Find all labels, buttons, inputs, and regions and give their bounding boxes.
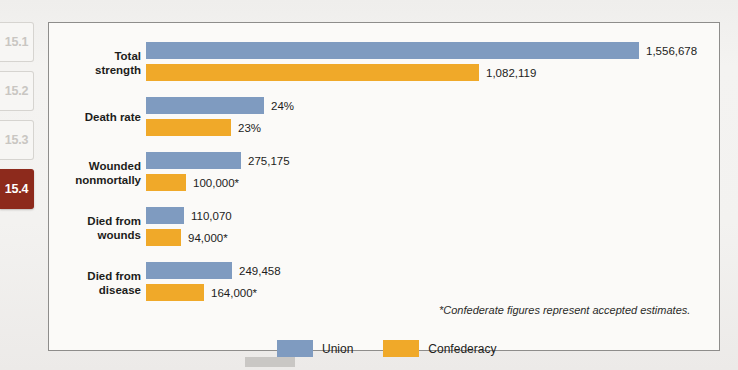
bar-value-union: 110,070 <box>191 210 232 222</box>
bar-value-confederacy: 94,000* <box>188 232 228 244</box>
bar-value-union: 1,556,678 <box>646 45 697 57</box>
bar-confederacy[interactable] <box>146 174 186 191</box>
bar-group-bars: 110,070 94,000* <box>146 206 719 250</box>
legend-item-confederacy[interactable]: Confederacy <box>383 340 496 357</box>
bar-group-death-rate: Death rate 24% 23% <box>49 96 719 140</box>
bar-value-union: 275,175 <box>248 155 290 167</box>
legend-item-union[interactable]: Union <box>277 340 353 357</box>
bar-row-confederacy: 164,000* <box>146 284 257 301</box>
bar-row-union: 249,458 <box>146 262 281 279</box>
legend-swatch-union <box>277 340 313 357</box>
bar-row-union: 110,070 <box>146 207 232 224</box>
bar-confederacy[interactable] <box>146 119 231 136</box>
bar-row-confederacy: 1,082,119 <box>146 64 536 81</box>
bar-value-confederacy: 1,082,119 <box>486 67 536 79</box>
bar-value-confederacy: 100,000* <box>193 177 239 189</box>
bar-value-union: 24% <box>271 100 294 112</box>
legend-label-union: Union <box>322 342 353 356</box>
chart-plot-area: Total strength 1,556,678 1,082,119 Death… <box>49 23 719 350</box>
bar-row-confederacy: 94,000* <box>146 229 228 246</box>
bar-value-confederacy: 164,000* <box>211 287 257 299</box>
sidebar-item-15-1[interactable]: 15.1 <box>0 22 34 62</box>
category-label: Wounded nonmortally <box>49 160 141 187</box>
section-tab-rail: 15.1 15.2 15.3 15.4 <box>0 22 34 218</box>
legend-swatch-confederacy <box>383 340 419 357</box>
legend-label-confederacy: Confederacy <box>428 342 496 356</box>
bar-group-bars: 275,175 100,000* <box>146 151 719 195</box>
bar-row-confederacy: 23% <box>146 119 261 136</box>
bar-row-confederacy: 100,000* <box>146 174 239 191</box>
bar-confederacy[interactable] <box>146 64 479 81</box>
sidebar-item-label: 15.2 <box>5 84 29 98</box>
bar-union[interactable] <box>146 152 241 169</box>
sidebar-item-label: 15.1 <box>5 35 29 49</box>
category-label: Died from disease <box>49 270 141 297</box>
sidebar-item-15-2[interactable]: 15.2 <box>0 71 34 111</box>
chart-legend: Union Confederacy <box>277 340 526 357</box>
bar-group-died-from-disease: Died from disease 249,458 164,000* <box>49 261 719 305</box>
bar-group-wounded-nonmortally: Wounded nonmortally 275,175 100,000* <box>49 151 719 195</box>
bar-value-union: 249,458 <box>239 265 281 277</box>
bar-confederacy[interactable] <box>146 284 204 301</box>
bar-group-total-strength: Total strength 1,556,678 1,082,119 <box>49 41 719 85</box>
category-label: Died from wounds <box>49 215 141 242</box>
bar-confederacy[interactable] <box>146 229 181 246</box>
bar-group-bars: 249,458 164,000* <box>146 261 719 305</box>
sidebar-item-15-3[interactable]: 15.3 <box>0 120 34 160</box>
bar-union[interactable] <box>146 42 639 59</box>
bar-union[interactable] <box>146 97 264 114</box>
bar-union[interactable] <box>146 207 184 224</box>
bar-row-union: 275,175 <box>146 152 290 169</box>
sidebar-item-label: 15.4 <box>5 182 29 196</box>
bar-value-confederacy: 23% <box>238 122 261 134</box>
chart-frame: Total strength 1,556,678 1,082,119 Death… <box>48 22 720 351</box>
chart-footnote: *Confederate figures represent accepted … <box>439 304 690 316</box>
category-label: Death rate <box>49 111 141 125</box>
bar-group-bars: 1,556,678 1,082,119 <box>146 41 719 85</box>
bar-row-union: 24% <box>146 97 294 114</box>
category-label: Total strength <box>49 50 141 77</box>
page-bottom-marker <box>245 357 295 367</box>
bar-row-union: 1,556,678 <box>146 42 697 59</box>
bar-group-bars: 24% 23% <box>146 96 719 140</box>
bar-union[interactable] <box>146 262 232 279</box>
bar-group-died-from-wounds: Died from wounds 110,070 94,000* <box>49 206 719 250</box>
sidebar-item-label: 15.3 <box>5 133 29 147</box>
sidebar-item-15-4[interactable]: 15.4 <box>0 169 34 209</box>
